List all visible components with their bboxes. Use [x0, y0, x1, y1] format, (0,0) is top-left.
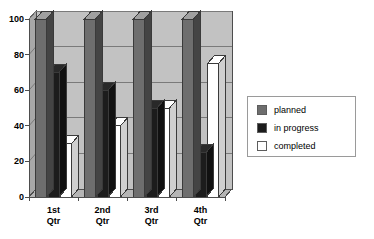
bar-planned-q2-side — [96, 11, 103, 197]
chart-left-wall — [29, 11, 36, 197]
y-tick-label: 100 — [2, 15, 24, 24]
y-tick-label: 40 — [2, 122, 24, 131]
bar-planned-q4-side — [194, 11, 201, 197]
x-tick-label-line: Qtr — [181, 216, 221, 227]
legend-swatch-completed — [257, 141, 267, 151]
bar-planned-q1-side — [47, 11, 54, 197]
legend-label-planned: planned — [274, 105, 306, 116]
bar-completed-q2-side — [121, 118, 128, 197]
legend-label-in-progress: in progress — [274, 123, 319, 134]
legend-label-completed: completed — [274, 141, 316, 152]
x-tick-label-line: 1st — [34, 205, 74, 216]
x-tick-label-line: 4th — [181, 205, 221, 216]
y-tick-label: 60 — [2, 86, 24, 95]
bar-planned-q2-front — [85, 19, 96, 197]
bar-completed-q4-side — [219, 56, 226, 198]
y-tick-label: 0 — [2, 193, 24, 202]
x-tick-label-line: 3rd — [132, 205, 172, 216]
bar-planned-q3-front — [134, 19, 145, 197]
x-tick-label: 2ndQtr — [83, 205, 123, 226]
legend-swatch-planned — [257, 105, 267, 115]
x-tick-label: 3rdQtr — [132, 205, 172, 226]
bar-chart: 020406080100 1stQtr2ndQtr3rdQtr4thQtr pl… — [0, 0, 374, 239]
x-tick-label-line: Qtr — [132, 216, 172, 227]
bar-completed-q1-side — [72, 136, 79, 197]
y-tick-label: 80 — [2, 51, 24, 60]
x-tick-label-line: 2nd — [83, 205, 123, 216]
bar-planned-q3-side — [145, 11, 152, 197]
x-tick-label-line: Qtr — [83, 216, 123, 227]
x-tick-label: 4thQtr — [181, 205, 221, 226]
bar-completed-q3-side — [170, 100, 177, 197]
bar-planned-q4-front — [183, 19, 194, 197]
x-tick-label-line: Qtr — [34, 216, 74, 227]
bar-planned-q1-front — [36, 19, 47, 197]
bar-in-progress-q1-side — [59, 64, 66, 197]
y-tick-label: 20 — [2, 157, 24, 166]
x-tick-label: 1stQtr — [34, 205, 74, 226]
bar-in-progress-q2-side — [108, 82, 115, 197]
bar-in-progress-q4-side — [206, 145, 213, 198]
bar-in-progress-q3-side — [157, 100, 164, 197]
legend-swatch-in-progress — [257, 123, 267, 133]
chart-legend: planned in progress completed — [247, 96, 356, 157]
